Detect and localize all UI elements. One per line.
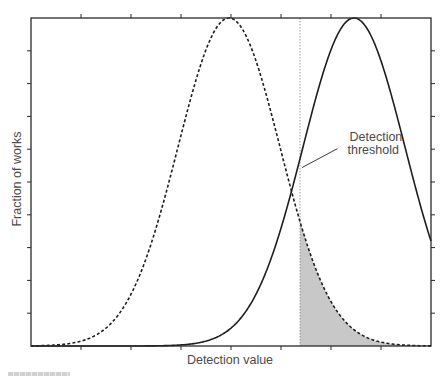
chart: Detection threshold Detection value Frac… — [0, 0, 447, 379]
figure-caption-fragment — [8, 372, 70, 376]
unmarked-distribution-curve — [31, 18, 431, 346]
plot-frame — [31, 18, 431, 346]
watermarked-distribution-curve — [31, 18, 431, 346]
annotation-label-line2: threshold — [348, 143, 399, 157]
false-positive-shaded-area — [300, 222, 431, 346]
y-axis-label: Fraction of works — [10, 131, 24, 226]
annotation-label-line1: Detection — [350, 130, 403, 144]
axis-ticks — [27, 14, 435, 350]
annotation-leader-line — [302, 149, 338, 168]
x-axis-label: Detection value — [187, 353, 273, 367]
